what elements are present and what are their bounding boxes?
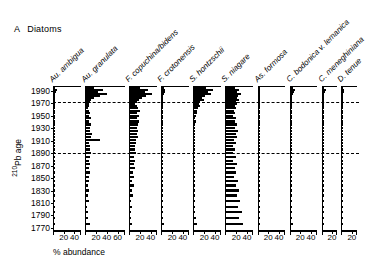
abundance-bar — [226, 117, 236, 119]
abundance-bar — [323, 123, 324, 125]
abundance-bar — [226, 133, 235, 135]
abundance-bar — [226, 223, 242, 225]
abundance-bar — [259, 217, 260, 219]
abundance-bar — [54, 130, 55, 132]
abundance-bar — [291, 176, 292, 178]
abundance-bar — [86, 223, 90, 225]
y-axis-tick-label: 1970 — [31, 99, 50, 108]
abundance-bar — [86, 139, 100, 141]
abundance-bar — [291, 142, 292, 144]
x-axis-end-cap — [290, 231, 291, 235]
panel-top-rule — [290, 86, 318, 87]
abundance-bar — [323, 127, 324, 129]
abundance-bar — [226, 123, 237, 125]
abundance-bar — [259, 130, 260, 132]
abundance-bar — [259, 123, 260, 125]
abundance-bar — [162, 206, 163, 208]
abundance-bar — [259, 136, 260, 138]
species-name-label: S. niagare — [220, 52, 252, 84]
abundance-bar — [130, 206, 132, 208]
abundance-bar — [54, 142, 55, 144]
x-axis-end-cap — [225, 231, 226, 235]
abundance-bar — [86, 136, 91, 138]
abundance-bar — [342, 180, 343, 182]
abundance-bar — [342, 184, 343, 186]
abundance-bar — [162, 176, 163, 178]
abundance-bar — [194, 223, 196, 225]
abundance-bar — [54, 223, 55, 225]
abundance-bar — [130, 160, 135, 162]
abundance-bar — [291, 145, 292, 147]
abundance-bar — [226, 136, 236, 138]
abundance-bar — [130, 142, 136, 144]
abundance-bar — [130, 117, 136, 119]
abundance-bar — [226, 176, 234, 178]
abundance-bar — [342, 130, 343, 132]
abundance-bar — [54, 171, 55, 173]
abundance-bar — [86, 123, 91, 125]
species-panel — [225, 86, 253, 231]
x-axis-title: % abundance — [53, 247, 105, 257]
abundance-bar — [323, 167, 324, 169]
abundance-bar — [342, 200, 343, 202]
abundance-bar — [291, 184, 292, 186]
abundance-bar — [226, 200, 240, 202]
abundance-bar — [323, 180, 324, 182]
x-axis-segment: 2040 — [290, 231, 318, 247]
abundance-bar — [291, 211, 292, 213]
abundance-bar — [259, 148, 260, 150]
abundance-bar — [162, 133, 163, 135]
abundance-bar — [86, 167, 89, 169]
abundance-bar — [323, 194, 324, 196]
panel-top-rule — [53, 86, 81, 87]
abundance-bar — [342, 206, 343, 208]
abundance-bar — [162, 142, 163, 144]
x-axis-end-cap — [193, 231, 194, 235]
species-panel — [258, 86, 286, 231]
y-axis-tick-label: 1950 — [31, 112, 50, 121]
abundance-bar — [162, 145, 163, 147]
abundance-bar — [323, 189, 324, 191]
abundance-bar — [54, 194, 55, 196]
abundance-bar — [291, 217, 292, 219]
abundance-bar — [291, 139, 292, 141]
x-axis-end-cap — [252, 231, 253, 235]
abundance-bar — [259, 223, 260, 225]
x-axis-end-cap — [284, 231, 285, 235]
x-axis-tick-label: 20 — [136, 234, 145, 242]
abundance-bar — [130, 148, 134, 150]
abundance-bar — [291, 180, 292, 182]
abundance-bar — [342, 145, 343, 147]
abundance-bar — [54, 123, 55, 125]
y-axis-tick-label: 1770 — [31, 224, 50, 233]
abundance-bar — [54, 189, 55, 191]
abundance-bar — [86, 142, 89, 144]
x-axis-rule — [129, 231, 157, 232]
species-name-label: Au. granulata — [80, 44, 120, 84]
abundance-bar — [259, 133, 260, 135]
x-axis-tick-label: 40 — [210, 234, 219, 242]
x-axis-tick-label: 20 — [59, 234, 68, 242]
abundance-bar — [194, 136, 195, 138]
abundance-bar — [86, 163, 90, 165]
abundance-bar — [323, 148, 324, 150]
x-axis-end-cap — [258, 231, 259, 235]
x-axis-tick-label: 20 — [347, 234, 356, 242]
abundance-bar — [323, 120, 324, 122]
abundance-bar — [162, 160, 163, 162]
abundance-bar — [259, 206, 260, 208]
x-axis-tick-label: 20 — [232, 234, 241, 242]
x-axis-segment: 2040 — [161, 231, 189, 247]
panel-top-rule — [341, 86, 357, 87]
abundance-bar — [194, 200, 195, 202]
figure-caption: ADiatoms — [14, 24, 62, 34]
abundance-bar — [342, 117, 343, 119]
x-axis-tick-label: 40 — [102, 234, 111, 242]
abundance-bar — [194, 211, 195, 213]
y-axis-tick-label: 1830 — [31, 186, 50, 195]
abundance-bar — [162, 163, 163, 165]
abundance-bar — [130, 211, 131, 213]
abundance-bar — [130, 163, 133, 165]
abundance-bar — [130, 127, 137, 129]
abundance-bar — [259, 160, 260, 162]
